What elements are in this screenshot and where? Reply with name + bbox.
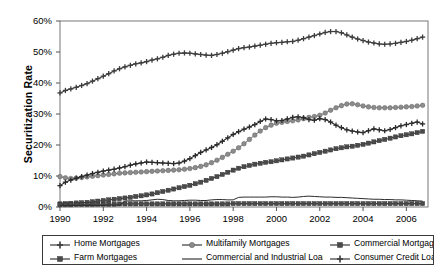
series-consumer-credit-loans <box>57 114 425 188</box>
chart-legend: Home Mortgages Multifamily Mortgages Com… <box>42 235 434 265</box>
series-home-mortgages <box>57 29 425 96</box>
legend-item-multifamily-mortgages[interactable]: Multifamily Mortgages <box>175 236 323 250</box>
legend-item-commercial-mortgages[interactable]: Commercial Mortgages <box>323 236 433 250</box>
legend-label: Consumer Credit Loans <box>354 252 433 262</box>
legend-marker-cross-icon <box>329 251 351 263</box>
legend-label: Multifamily Mortgages <box>206 238 290 248</box>
data-series-group <box>57 29 425 207</box>
legend-label: Commercial and Industrial Loans <box>206 252 323 262</box>
series-farm-mortgages <box>58 201 425 206</box>
legend-item-home-mortgages[interactable]: Home Mortgages <box>43 236 175 250</box>
legend-label: Farm Mortgages <box>74 252 137 262</box>
series-commercial-mortgages <box>58 129 425 206</box>
axes <box>56 21 428 211</box>
legend-marker-line-icon <box>181 251 203 263</box>
legend-label: Home Mortgages <box>74 238 140 248</box>
legend-item-farm-mortgages[interactable]: Farm Mortgages <box>43 250 175 264</box>
legend-marker-cross-icon <box>49 237 71 249</box>
legend-row-1: Home Mortgages Multifamily Mortgages Com… <box>43 236 433 250</box>
legend-marker-square-icon <box>329 237 351 249</box>
legend-item-commercial-industrial-loans[interactable]: Commercial and Industrial Loans <box>175 250 323 264</box>
legend-marker-square-icon <box>49 251 71 263</box>
legend-marker-circle-icon <box>181 237 203 249</box>
plot-canvas <box>0 0 440 272</box>
legend-item-consumer-credit-loans[interactable]: Consumer Credit Loans <box>323 250 433 264</box>
legend-label: Commercial Mortgages <box>354 238 433 248</box>
securitization-rate-chart: Securitization Rate 0%10%20%30%40%50%60%… <box>0 0 440 272</box>
legend-row-2: Farm Mortgages Commercial and Industrial… <box>43 250 433 264</box>
